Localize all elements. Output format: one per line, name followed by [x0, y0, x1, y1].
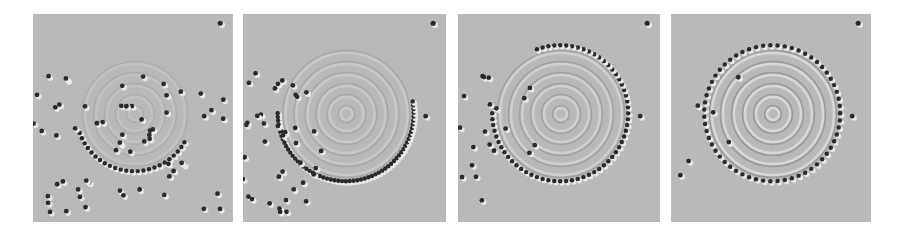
stm-panel-4 — [671, 14, 871, 222]
stm-panel-3 — [458, 14, 660, 222]
stm-panel-1 — [33, 14, 233, 222]
panel-4-image — [671, 14, 871, 222]
stm-panel-2 — [243, 14, 446, 222]
panel-3-image — [458, 14, 660, 222]
panel-1-image — [33, 14, 233, 222]
panel-2-image — [243, 14, 446, 222]
